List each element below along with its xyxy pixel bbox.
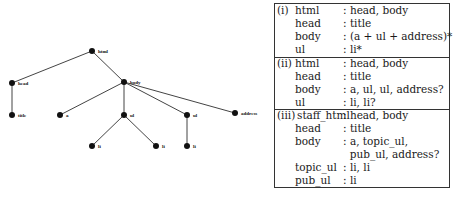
grammar-rule: head : title <box>275 70 449 83</box>
grammar-rule: topic_ul : li, li <box>275 161 449 174</box>
rule-lhs: ul <box>295 43 305 56</box>
grammar-rule: head : title <box>275 122 449 135</box>
grammar-section-iii: (iii) staff_html : head, body head : tit… <box>275 109 449 189</box>
rule-rhs: : title <box>343 122 371 135</box>
grammar-rule: body : a, topic_ul, <box>275 135 449 148</box>
grammar-rule: head : title <box>275 17 449 30</box>
grammar-rule: ul : li, li? <box>275 96 449 109</box>
grammar-rule: pub_ul : li <box>275 174 449 187</box>
grammar-rule: body : (a + ul + address)* <box>275 30 449 43</box>
rule-rhs: : title <box>343 70 371 83</box>
grammar-rule: (iii) staff_html : head, body <box>275 109 449 122</box>
rule-lhs: head <box>295 70 321 83</box>
rule-rhs: : a, ul, ul, address? <box>343 83 444 96</box>
tree-node-address <box>232 110 238 116</box>
tree-node-label: html <box>98 49 109 54</box>
rule-lhs: head <box>295 122 321 135</box>
tree-node-a <box>57 112 63 118</box>
rule-rhs: : (a + ul + address)* <box>343 30 452 43</box>
tree-node-label: address <box>241 111 257 116</box>
rule-rhs: : head, body <box>343 4 408 17</box>
tree-node-label: ul <box>193 113 198 118</box>
tree-node-label: li <box>98 144 101 149</box>
grammar-rule: (i) html : head, body <box>275 4 449 17</box>
rule-rhs: : a, topic_ul, <box>343 135 408 148</box>
grammar-rule: ul : li* <box>275 43 449 56</box>
tree-node-label: a <box>66 113 69 118</box>
tree-node-li2 <box>153 143 159 149</box>
tree-node-html <box>89 48 95 54</box>
rule-lhs: body <box>295 83 321 96</box>
grammar-section-i: (i) html : head, body head : title body … <box>275 4 449 58</box>
tree-node-ul1 <box>121 112 127 118</box>
rule-rhs: : head, body <box>343 109 408 122</box>
tree-node-label: title <box>18 113 27 118</box>
rule-lhs: head <box>295 17 321 30</box>
rule-lhs: pub_ul <box>295 174 331 187</box>
tree-node-head <box>9 80 15 86</box>
tree-node-label: body <box>130 80 141 85</box>
rule-rhs: : head, body <box>343 57 408 70</box>
rule-lhs: body <box>295 30 321 43</box>
rule-rhs: : li, li? <box>343 96 376 109</box>
rule-lhs: html <box>295 4 319 17</box>
tree-edge <box>60 82 124 115</box>
tree-node-li3 <box>184 143 190 149</box>
tree-edge <box>92 51 124 82</box>
tree-edge <box>12 51 92 83</box>
tree-node-label: li <box>193 144 196 149</box>
tree-edge <box>124 82 235 113</box>
rule-lhs: topic_ul <box>295 161 337 174</box>
tree-node-label: head <box>18 81 29 86</box>
tree-node-title <box>9 112 15 118</box>
section-number: (iii) <box>277 109 295 122</box>
tree-node-label: li <box>162 144 165 149</box>
tree-edge <box>124 82 187 115</box>
tree-node-ul2 <box>184 112 190 118</box>
section-number: (i) <box>277 4 289 17</box>
grammar-section-ii: (ii) html : head, body head : title body… <box>275 57 449 110</box>
grammar-rule: (ii) html : head, body <box>275 57 449 70</box>
tree-node-label: ul <box>130 113 135 118</box>
document-tree-diagram: htmlheadbodytitleaululaddresslilili <box>0 0 265 200</box>
rule-rhs: : title <box>343 17 371 30</box>
rule-rhs: : li* <box>343 43 362 56</box>
rule-rhs: pub_ul, address? <box>343 148 439 161</box>
tree-node-body <box>121 79 127 85</box>
rule-lhs: body <box>295 135 321 148</box>
grammar-rule: body : a, ul, ul, address? <box>275 83 449 96</box>
tree-node-li1 <box>89 143 95 149</box>
tree-edge <box>92 115 124 146</box>
rule-lhs: staff_html <box>297 109 350 122</box>
grammar-rule-continuation: pub_ul, address? <box>275 148 449 161</box>
tree-edge <box>124 115 156 146</box>
grammar-table: (i) html : head, body head : title body … <box>274 3 450 188</box>
rule-lhs: html <box>295 57 319 70</box>
section-number: (ii) <box>277 57 292 70</box>
rule-rhs: : li <box>343 174 357 187</box>
rule-rhs: : li, li <box>343 161 370 174</box>
rule-lhs: ul <box>295 96 305 109</box>
